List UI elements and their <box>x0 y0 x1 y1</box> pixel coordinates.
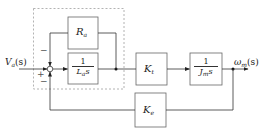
mech-numerator: 1 <box>203 57 208 66</box>
armature-den-var: s <box>85 67 89 76</box>
armature-tf: 1 Las <box>70 57 96 79</box>
sign-top: − <box>40 46 48 55</box>
input-label: Va(s) <box>5 58 27 68</box>
armature-numerator: 1 <box>80 57 85 66</box>
kt-label: Kt <box>144 64 154 75</box>
kt-subscript: t <box>151 68 153 75</box>
ra-subscript: a <box>84 31 88 38</box>
output-label: ωm(s) <box>234 58 259 68</box>
ke-label: Ke <box>143 105 154 116</box>
ra-loop-in-line <box>50 33 68 66</box>
ke-subscript: e <box>150 109 154 116</box>
sign-bottom: − <box>40 77 48 86</box>
mech-tf: 1 Jms <box>192 57 220 79</box>
summing-junction <box>47 66 53 72</box>
ra-symbol: R <box>76 26 84 37</box>
ra-label: Ra <box>76 27 87 38</box>
ra-loop-out-line <box>98 33 116 69</box>
armature-denominator: Las <box>77 67 90 79</box>
block-diagram: Va(s) − + − Ra 1 Las Kt 1 Jms Ke ωm(s) <box>0 0 265 132</box>
input-arg: (s) <box>15 57 27 67</box>
output-arg: (s) <box>247 57 259 67</box>
diagram-lines <box>0 0 265 132</box>
mech-denominator: Jms <box>199 67 212 79</box>
mech-den-var: s <box>208 67 212 76</box>
